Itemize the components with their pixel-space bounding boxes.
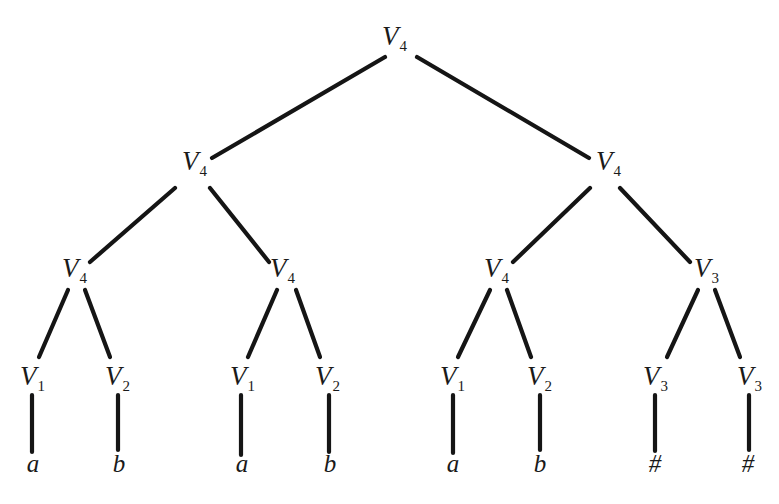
node-subscript: 1 [458, 378, 466, 394]
tree-edge [417, 57, 589, 158]
tree-node-label: V2 [527, 361, 552, 394]
tree-edge [667, 290, 698, 357]
tree-edge [513, 188, 590, 262]
tree-node-label: V3 [643, 361, 668, 394]
node-subscript: 4 [288, 270, 296, 286]
node-subscript: 4 [200, 163, 208, 179]
tree-edge [715, 290, 740, 357]
tree-node-label: V1 [440, 361, 465, 394]
node-subscript: 2 [545, 378, 553, 394]
tree-node-label: V4 [484, 253, 510, 286]
tree-leaf-label: # [649, 450, 662, 477]
tree-edge [90, 188, 175, 262]
node-subscript: 2 [123, 378, 131, 394]
tree-nodes: V4V4V4V4V4V4V3V1V2V1V2V1V2V3V3 [20, 21, 762, 394]
tree-node-label: V1 [230, 361, 255, 394]
tree-node-label: V4 [596, 146, 622, 179]
tree-node-label: V4 [270, 253, 296, 286]
tree-edge [507, 290, 531, 357]
tree-edge [458, 290, 490, 357]
node-subscript: 3 [755, 378, 763, 394]
tree-leaf-label: a [447, 450, 460, 477]
tree-edge [296, 290, 320, 357]
parse-tree-diagram: V4V4V4V4V4V4V3V1V2V1V2V1V2V3V3 ababab## [0, 0, 779, 504]
tree-node-label: V3 [694, 253, 719, 286]
tree-leaves: ababab## [27, 450, 755, 477]
tree-leaf-label: b [113, 450, 126, 477]
tree-node-label: V4 [382, 21, 408, 54]
tree-node-label: V1 [20, 361, 45, 394]
tree-node-label: V4 [62, 253, 88, 286]
tree-edge [39, 290, 68, 357]
node-subscript: 2 [333, 378, 341, 394]
node-subscript: 4 [502, 270, 510, 286]
tree-leaf-label: b [324, 450, 337, 477]
tree-leaf-label: b [534, 450, 547, 477]
node-subscript: 3 [661, 378, 669, 394]
tree-node-label: V4 [182, 146, 208, 179]
tree-node-label: V2 [105, 361, 130, 394]
tree-leaf-label: # [742, 450, 755, 477]
tree-leaf-label: a [236, 450, 249, 477]
tree-edge [85, 290, 110, 357]
tree-leaf-label: a [27, 450, 40, 477]
tree-edges [32, 57, 749, 455]
node-subscript: 4 [80, 270, 88, 286]
tree-edge [212, 57, 385, 158]
node-subscript: 4 [614, 163, 622, 179]
tree-edge [248, 290, 277, 357]
tree-edge [620, 188, 690, 262]
tree-edge [210, 188, 269, 262]
tree-node-label: V3 [737, 361, 762, 394]
node-subscript: 1 [38, 378, 46, 394]
tree-node-label: V2 [315, 361, 340, 394]
node-subscript: 3 [712, 270, 720, 286]
node-subscript: 1 [248, 378, 256, 394]
node-subscript: 4 [400, 38, 408, 54]
